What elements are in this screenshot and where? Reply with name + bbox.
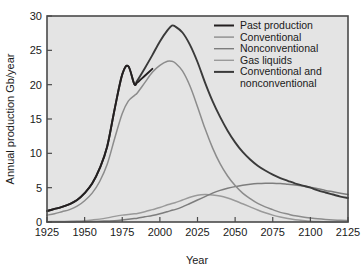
legend-label: Conventional: [240, 31, 301, 43]
x-tick-label: 2050: [223, 226, 247, 238]
x-tick-label: 2125: [336, 226, 360, 238]
x-axis-tick-labels: 192519501975200020252050207521002125: [35, 226, 360, 238]
x-tick-label: 2025: [185, 226, 209, 238]
y-axis-tick-labels: 051015202530: [30, 10, 42, 228]
x-tick-label: 2075: [261, 226, 285, 238]
y-tick-label: 30: [30, 10, 42, 22]
x-tick-label: 1975: [110, 226, 134, 238]
y-tick-label: 5: [36, 182, 42, 194]
legend-label: Conventional and: [240, 65, 322, 77]
y-tick-label: 25: [30, 44, 42, 56]
y-tick-label: 0: [36, 216, 42, 228]
chart-figure: 192519501975200020252050207521002125 051…: [0, 0, 362, 269]
x-tick-label: 2100: [298, 226, 322, 238]
legend-label: Nonconventional: [240, 42, 318, 54]
y-tick-label: 10: [30, 147, 42, 159]
line-chart: 192519501975200020252050207521002125 051…: [0, 0, 362, 269]
y-axis-title: Annual production Gb/year: [4, 53, 16, 184]
legend-label: Gas liquids: [240, 54, 292, 66]
x-tick-label: 1950: [72, 226, 96, 238]
y-tick-label: 15: [30, 113, 42, 125]
legend-label: nonconventional: [240, 77, 316, 89]
y-tick-label: 20: [30, 79, 42, 91]
x-axis-title: Year: [186, 254, 209, 266]
x-tick-label: 2000: [148, 226, 172, 238]
legend-label: Past production: [240, 19, 313, 31]
